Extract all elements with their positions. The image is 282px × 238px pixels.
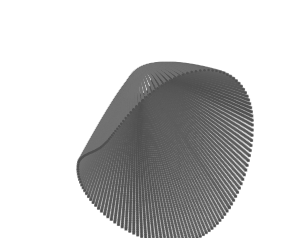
figure-container [0,0,282,238]
dotted-surface-plot [0,0,282,238]
